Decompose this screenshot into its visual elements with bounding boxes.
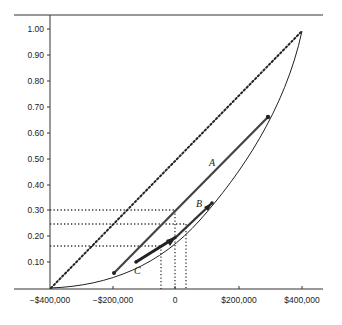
x-tick-label: 0 [173, 295, 178, 305]
y-tick-label: 0.50 [27, 154, 44, 164]
x-tick-label: $400,000 [284, 295, 320, 305]
y-tick-label: 1.00 [27, 24, 44, 34]
utility-chart: 0.10 0.20 0.30 0.40 0.50 0.60 0.70 0.80 … [0, 0, 342, 325]
label-a: A [208, 157, 216, 168]
y-tick-label: 0.20 [27, 231, 44, 241]
x-tick-label: $200,000 [221, 295, 257, 305]
y-tick-labels: 0.10 0.20 0.30 0.40 0.50 0.60 0.70 0.80 … [27, 24, 44, 267]
label-c: C [134, 265, 141, 276]
point-a-high [266, 115, 270, 119]
y-tick-label: 0.30 [27, 205, 44, 215]
x-tick-label: −$400,000 [30, 295, 71, 305]
label-b: B [196, 198, 202, 209]
line-a [114, 117, 268, 273]
y-tick-label: 0.70 [27, 102, 44, 112]
point-b-high [210, 201, 214, 205]
point-a-low [112, 271, 116, 275]
x-tick-labels: −$400,000 −$200,000 0 $200,000 $400,000 [30, 295, 320, 305]
x-tick-label: −$200,000 [93, 295, 134, 305]
y-tick-label: 0.90 [27, 50, 44, 60]
y-tick-label: 0.40 [27, 180, 44, 190]
y-tick-label: 0.60 [27, 128, 44, 138]
y-tick-label: 0.80 [27, 76, 44, 86]
point-c-low [134, 260, 138, 264]
y-tick-label: 0.10 [27, 257, 44, 267]
diagonal-dotted-line [51, 31, 302, 288]
